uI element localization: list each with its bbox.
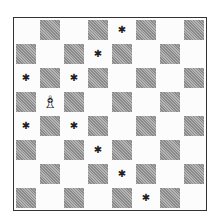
dark-square-hatch: [136, 164, 156, 184]
dark-square-hatch: [112, 188, 132, 208]
square-c6: ✱: [62, 66, 86, 90]
square-f7: [134, 42, 158, 66]
dark-square-hatch: [184, 68, 204, 88]
square-d8: [86, 18, 110, 42]
square-g2: [158, 162, 182, 186]
star-marker-icon: ✱: [118, 25, 126, 35]
square-d6: [86, 66, 110, 90]
dark-square-hatch: [88, 164, 108, 184]
square-f5: [134, 90, 158, 114]
square-f4: [134, 114, 158, 138]
square-h1: [182, 186, 206, 210]
square-b2: [38, 162, 62, 186]
square-c5: [62, 90, 86, 114]
square-g6: [158, 66, 182, 90]
square-h4: [182, 114, 206, 138]
square-h3: [182, 138, 206, 162]
dark-square-hatch: [64, 140, 84, 160]
dark-square-hatch: [112, 44, 132, 64]
star-marker-icon: ✱: [22, 73, 30, 83]
dark-square-hatch: [160, 92, 180, 112]
dark-square-hatch: [40, 164, 60, 184]
dark-square-hatch: [64, 44, 84, 64]
dark-square-hatch: [40, 20, 60, 40]
square-d1: [86, 186, 110, 210]
square-g5: [158, 90, 182, 114]
square-g4: [158, 114, 182, 138]
square-a7: [14, 42, 38, 66]
square-e5: [110, 90, 134, 114]
square-d5: [86, 90, 110, 114]
square-e1: [110, 186, 134, 210]
square-d7: ✱: [86, 42, 110, 66]
square-a5: [14, 90, 38, 114]
square-h6: [182, 66, 206, 90]
star-marker-icon: ✱: [94, 145, 102, 155]
square-f2: [134, 162, 158, 186]
square-a3: [14, 138, 38, 162]
star-marker-icon: ✱: [70, 121, 78, 131]
square-h5: [182, 90, 206, 114]
square-f1: ✱: [134, 186, 158, 210]
square-e8: ✱: [110, 18, 134, 42]
square-a4: ✱: [14, 114, 38, 138]
square-e7: [110, 42, 134, 66]
square-a6: ✱: [14, 66, 38, 90]
square-c4: ✱: [62, 114, 86, 138]
square-g7: [158, 42, 182, 66]
star-marker-icon: ✱: [22, 121, 30, 131]
dark-square-hatch: [136, 116, 156, 136]
square-b8: [38, 18, 62, 42]
square-c8: [62, 18, 86, 42]
dark-square-hatch: [88, 116, 108, 136]
square-b7: [38, 42, 62, 66]
square-f6: [134, 66, 158, 90]
square-d4: [86, 114, 110, 138]
square-a2: [14, 162, 38, 186]
dark-square-hatch: [136, 68, 156, 88]
square-c2: [62, 162, 86, 186]
square-e6: [110, 66, 134, 90]
dark-square-hatch: [88, 20, 108, 40]
square-c1: [62, 186, 86, 210]
square-g8: [158, 18, 182, 42]
square-f3: [134, 138, 158, 162]
square-e2: ✱: [110, 162, 134, 186]
square-c7: [62, 42, 86, 66]
square-d3: ✱: [86, 138, 110, 162]
dark-square-hatch: [64, 92, 84, 112]
dark-square-hatch: [64, 188, 84, 208]
square-d2: [86, 162, 110, 186]
square-a8: [14, 18, 38, 42]
star-marker-icon: ✱: [70, 73, 78, 83]
square-b6: [38, 66, 62, 90]
square-h7: [182, 42, 206, 66]
dark-square-hatch: [16, 140, 36, 160]
square-g1: [158, 186, 182, 210]
square-c3: [62, 138, 86, 162]
square-e4: [110, 114, 134, 138]
square-h2: [182, 162, 206, 186]
dark-square-hatch: [136, 20, 156, 40]
square-b1: [38, 186, 62, 210]
dark-square-hatch: [88, 68, 108, 88]
dark-square-hatch: [16, 44, 36, 64]
dark-square-hatch: [160, 188, 180, 208]
dark-square-hatch: [184, 116, 204, 136]
chess-board: ✱✱✱✱♗✱✱✱✱✱: [13, 17, 207, 211]
square-f8: [134, 18, 158, 42]
star-marker-icon: ✱: [94, 49, 102, 59]
dark-square-hatch: [16, 188, 36, 208]
star-marker-icon: ✱: [142, 193, 150, 203]
white-bishop-icon: ♗: [42, 94, 57, 111]
dark-square-hatch: [16, 92, 36, 112]
dark-square-hatch: [160, 44, 180, 64]
square-g3: [158, 138, 182, 162]
dark-square-hatch: [160, 140, 180, 160]
dark-square-hatch: [112, 140, 132, 160]
dark-square-hatch: [184, 164, 204, 184]
star-marker-icon: ✱: [118, 169, 126, 179]
dark-square-hatch: [112, 92, 132, 112]
dark-square-hatch: [184, 20, 204, 40]
square-b3: [38, 138, 62, 162]
